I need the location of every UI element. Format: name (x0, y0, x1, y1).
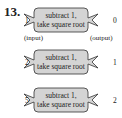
function-machine-2: 2 subtract 1, take square root 1 (0, 48, 122, 76)
machine-text: subtract 1, take square root (36, 12, 86, 29)
function-machine-3: 5 subtract 1, take square root 2 (0, 86, 122, 114)
output-value: 1 (113, 58, 117, 67)
function-machine-1: 1 subtract 1, take square root 0 (0, 6, 122, 34)
machine-text: subtract 1, take square root (36, 54, 86, 71)
input-value: 5 (25, 96, 29, 105)
output-label: (output) (90, 34, 113, 42)
output-value: 2 (113, 96, 117, 105)
machine-text: subtract 1, take square root (36, 92, 86, 109)
output-value: 0 (113, 16, 117, 25)
input-value: 2 (25, 58, 29, 67)
input-value: 1 (25, 16, 29, 25)
input-label: (input) (24, 34, 43, 42)
